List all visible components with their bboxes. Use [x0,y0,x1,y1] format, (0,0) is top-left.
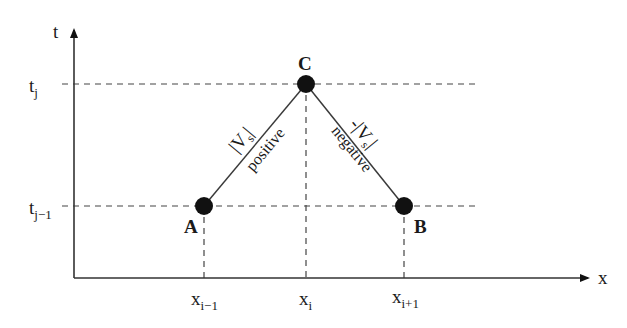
x-tick-xi-1-base: x [191,288,201,309]
edge-A-C [204,84,306,206]
edge-C-B-labels: -|Vs| negative [328,109,392,176]
point-B [395,197,413,215]
t-tick-tj-sub: j [33,85,38,100]
t-axis-label: t [53,21,59,42]
x-tick-xi-sub: i [309,298,313,313]
x-axis-label: x [598,267,608,288]
point-B-label: B [414,216,427,237]
axes [74,30,588,278]
x-tick-xi-1: xi−1 [191,288,218,313]
diagram-canvas: t x tj tj−1 xi−1 xi xi+1 |Vs| positive -… [0,0,627,328]
point-A-label: A [184,216,198,237]
x-tick-xi: xi [299,288,313,313]
point-C-label: C [298,53,312,74]
x-tick-xi+1: xi+1 [392,286,419,311]
x-tick-xi-1-sub: i−1 [201,298,218,313]
t-tick-tj-1: tj−1 [29,197,52,222]
t-tick-tj-1-sub: j−1 [33,207,51,222]
point-A [195,197,213,215]
t-tick-tj: tj [29,75,38,100]
point-C [297,75,315,93]
x-tick-xi+1-sub: i+1 [402,296,419,311]
x-tick-xi+1-base: x [392,286,402,307]
x-tick-xi-base: x [299,288,309,309]
guide-lines [62,84,478,282]
